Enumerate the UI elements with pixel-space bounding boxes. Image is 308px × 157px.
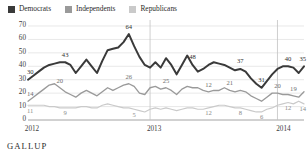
point-label-rep-5: 5	[133, 111, 137, 118]
point-label-dem-48: 48	[189, 53, 196, 60]
point-label-rep-12: 12	[285, 104, 292, 111]
legend-item-democrats: Democrats	[8, 5, 51, 12]
point-label-dem-30: 30	[27, 68, 34, 75]
point-label-rep-9: 9	[64, 109, 68, 116]
point-label-rep-12: 12	[205, 109, 212, 116]
point-label-dem-40: 40	[285, 55, 292, 62]
legend-item-independents: Independents	[65, 5, 115, 12]
point-label-dem-64: 64	[126, 23, 133, 30]
x-tick-2012: 2012	[25, 126, 39, 133]
legend-swatch-republicans	[129, 6, 136, 13]
point-label-rep-6: 6	[260, 113, 264, 120]
point-label-rep-11: 11	[27, 107, 33, 114]
gallup-line-chart: DemocratsIndependentsRepublicans 0102030…	[0, 0, 308, 157]
series-canvas: 3043644837314035401420262512212019211195…	[0, 18, 308, 128]
point-label-rep-12: 12	[306, 18, 308, 19]
point-label-rep-8: 8	[239, 109, 243, 116]
point-label-ind-25: 25	[163, 77, 170, 84]
point-label-ind-19: 19	[290, 85, 297, 92]
x-axis: 201220132014	[0, 126, 308, 140]
legend-item-republicans: Republicans	[129, 5, 177, 12]
point-label-ind-12: 12	[205, 81, 212, 88]
point-label-ind-14: 14	[27, 90, 34, 97]
plot-area: 010203040506070 304364483731403540142026…	[0, 18, 308, 128]
point-label-rep-14: 14	[299, 105, 306, 112]
point-label-ind-21: 21	[226, 79, 233, 86]
point-label-dem-31: 31	[258, 76, 265, 83]
chart-svg: 3043644837314035401420262512212019211195…	[0, 18, 308, 128]
legend-swatch-democrats	[8, 6, 15, 13]
legend-label-independents: Independents	[76, 5, 115, 12]
point-label-dem-43: 43	[62, 51, 69, 58]
gallup-logo: GALLUP	[7, 141, 48, 151]
legend-label-republicans: Republicans	[140, 5, 177, 12]
point-label-dem-35: 35	[299, 55, 306, 62]
x-tick-2013: 2013	[147, 126, 161, 133]
chart-legend: DemocratsIndependentsRepublicans	[8, 3, 191, 15]
point-label-ind-20: 20	[57, 77, 64, 84]
legend-label-democrats: Democrats	[19, 5, 51, 12]
point-label-dem-37: 37	[237, 57, 244, 64]
point-label-ind-26: 26	[126, 73, 133, 80]
point-label-ind-20: 20	[274, 82, 281, 89]
legend-swatch-independents	[65, 6, 72, 13]
x-tick-2014: 2014	[276, 126, 290, 133]
